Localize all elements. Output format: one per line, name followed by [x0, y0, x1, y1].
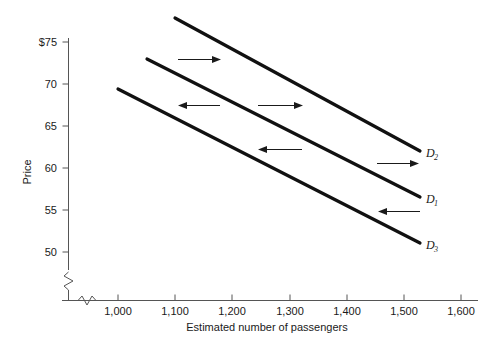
curve-label-d2-subscript: 2 [434, 153, 438, 162]
demand-curve-d3 [118, 89, 420, 243]
x-tick-label-1400: 1,400 [333, 305, 361, 317]
x-axis-title: Estimated number of passengers [186, 321, 348, 333]
shift-arrow-left-upper-head [178, 102, 187, 109]
demand-curve-d2 [175, 18, 420, 151]
x-tick-label-1500: 1,500 [390, 305, 418, 317]
y-tick-label-50: 50 [45, 246, 57, 258]
curve-label-d3-subscript: 3 [433, 245, 438, 254]
shift-arrow-right-upper-head [212, 56, 221, 63]
x-axis-ticks [118, 295, 461, 301]
curve-label-d2: D 2 [425, 146, 438, 162]
y-tick-label-65: 65 [45, 120, 57, 132]
y-axis-ticks [63, 42, 69, 252]
curve-label-d3: D 3 [425, 238, 438, 254]
shift-arrow-left-upper [178, 102, 220, 109]
shift-arrow-right-upper [178, 56, 221, 63]
x-tick-label-1300: 1,300 [276, 305, 304, 317]
y-axis-title: Price [21, 159, 33, 184]
curve-label-d1: D 1 [425, 192, 438, 208]
shift-arrow-left-lower-head [378, 208, 387, 215]
y-axis-break-icon [64, 272, 73, 300]
x-tick-label-1600: 1,600 [447, 305, 475, 317]
x-tick-label-1100: 1,100 [161, 305, 189, 317]
y-tick-label-75: $75 [39, 36, 57, 48]
chart-canvas: $75 70 65 60 55 50 1,000 1,100 1,200 1,3… [0, 0, 485, 349]
shift-arrow-left-mid [258, 146, 302, 153]
shift-arrow-left-mid-head [258, 146, 267, 153]
y-tick-label-60: 60 [45, 162, 57, 174]
shift-arrow-right-mid-head [294, 102, 303, 109]
y-tick-label-55: 55 [45, 204, 57, 216]
demand-curve-chart: $75 70 65 60 55 50 1,000 1,100 1,200 1,3… [0, 0, 485, 349]
x-tick-label-1000: 1,000 [104, 305, 132, 317]
shift-arrow-right-lower-head [410, 160, 419, 167]
shift-arrow-right-mid [258, 102, 303, 109]
curve-label-d1-subscript: 1 [434, 199, 438, 208]
shift-arrow-right-lower [377, 160, 419, 167]
y-tick-label-70: 70 [45, 78, 57, 90]
shift-arrow-left-lower [378, 208, 420, 215]
x-tick-label-1200: 1,200 [218, 305, 246, 317]
